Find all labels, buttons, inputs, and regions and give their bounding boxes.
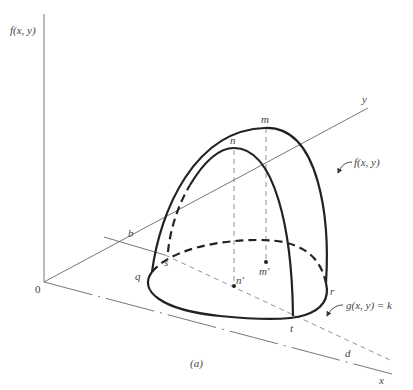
constrained-optimization-diagram: f(x, y) 0 y x m n b s q r t d n′ m′ f(x,… — [0, 0, 413, 390]
point-m-prime — [264, 260, 268, 264]
label-n: n — [230, 134, 236, 146]
constraint-pointer-arrow — [327, 305, 343, 316]
figure-caption: (a) — [190, 357, 203, 370]
label-t: t — [290, 322, 294, 334]
x-axis — [44, 282, 392, 374]
label-s: s — [164, 256, 168, 268]
label-q: q — [135, 270, 141, 282]
dome-outer-arc — [152, 128, 327, 283]
label-m: m — [261, 113, 269, 125]
surface-pointer-arrow — [338, 162, 352, 173]
y-axis — [44, 108, 368, 282]
label-b: b — [128, 227, 134, 239]
y-axis-label: y — [361, 93, 367, 105]
label-m-prime: m′ — [259, 265, 270, 277]
surface-annotation: f(x, y) — [354, 156, 380, 169]
vertical-axis-label: f(x, y) — [10, 24, 36, 37]
section-arc-hidden — [168, 185, 190, 252]
label-d: d — [345, 347, 351, 359]
x-axis-label: x — [378, 374, 384, 386]
origin-label: 0 — [35, 283, 41, 295]
label-n-prime: n′ — [236, 274, 245, 286]
label-r: r — [330, 285, 335, 297]
constraint-annotation: g(x, y) = k — [346, 299, 393, 312]
